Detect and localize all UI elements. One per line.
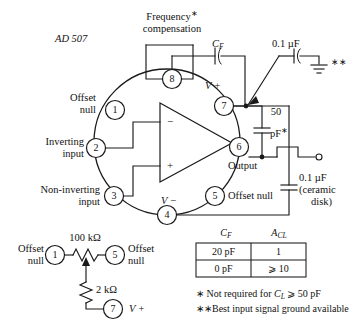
- minus-sign-text: −: [167, 115, 173, 127]
- footnote1-cl-symbol: C: [274, 288, 281, 299]
- output-jog-wire: [277, 147, 315, 157]
- bypass-cap-right-lead: [300, 56, 319, 64]
- resistor-100k-value: 100 kΩ: [69, 232, 100, 243]
- trimmer-offset-left-line1: Offset: [18, 243, 44, 254]
- pin7-to-50pf-wire: [246, 106, 262, 128]
- pin-label-3: 3: [107, 191, 121, 201]
- trimmer-v-plus-label: V +: [129, 303, 145, 315]
- table-header-cf-sub: F: [227, 231, 232, 240]
- freq-comp-right-branch: [182, 45, 193, 79]
- v-minus-label: V −: [161, 195, 177, 207]
- footnote-single-star: ∗ Not required for CL ⩾ 50 pF: [196, 288, 321, 303]
- output-ceramic-cap-label: 0.1 µF (ceramic disk): [299, 172, 336, 208]
- non-inverting-input-label: Non-inverting input: [2, 184, 100, 207]
- inverting-sign-label: −: [167, 116, 173, 128]
- trimmer-pin-label-7: 7: [106, 304, 120, 314]
- resistor-100k-label: 100 kΩ: [56, 232, 114, 244]
- pin-label-2: 2: [89, 143, 103, 153]
- offset-null-pin1-label: Offset null: [26, 92, 96, 115]
- trimmer-offset-left-line2: null: [28, 255, 44, 266]
- bypass-capacitor-label: 0.1 µF: [272, 38, 300, 50]
- output-cap-value: 0.1 µF: [299, 172, 327, 183]
- pin-label-6: 6: [232, 142, 246, 152]
- table-header-cf: CF: [212, 228, 240, 241]
- resistor-2k-value: 2 kΩ: [96, 284, 117, 295]
- table-cell-acl-row1: 1: [251, 247, 306, 257]
- trimmer-bottom-lead: [86, 303, 103, 309]
- output-label: Output: [228, 160, 257, 172]
- bypass-pointer-line: [248, 56, 279, 105]
- device-name-label: AD 507: [55, 33, 87, 45]
- footnote-doublestar-mark: ∗∗: [196, 303, 212, 314]
- compensation-label-text: compensation: [143, 23, 201, 34]
- inverting-input-line2: input: [62, 148, 84, 159]
- ground-double-star-label: ∗∗: [331, 57, 347, 69]
- non-inverting-input-line1: Non-inverting: [41, 184, 101, 195]
- pin-label-5: 5: [208, 191, 222, 201]
- v-minus-text: V −: [161, 195, 177, 206]
- inverting-input-line1: Inverting: [46, 136, 85, 147]
- inverting-input-wire: [105, 122, 160, 148]
- offset-null-pin5-text: Offset null: [228, 190, 273, 201]
- ground-double-star-text: ∗∗: [331, 57, 347, 67]
- device-name-text: AD 507: [55, 33, 87, 44]
- table-cell-acl-row2: ⩾ 10: [251, 264, 306, 274]
- frequency-asterisk: ∗: [191, 9, 198, 18]
- trimmer-offset-null-right-label: Offset null: [128, 243, 154, 266]
- cap50-unit-text: pF: [270, 128, 281, 139]
- pin-label-7: 7: [217, 101, 231, 111]
- table-cell-cf-row1: 20 pF: [196, 247, 251, 257]
- non-inverting-input-line2: input: [78, 196, 100, 207]
- pin-label-4: 4: [160, 210, 174, 220]
- bypass-capacitor-value: 0.1 µF: [272, 38, 300, 49]
- footnote-star-mark: ∗: [196, 288, 204, 299]
- table-header-acl: ACL: [264, 228, 294, 241]
- offset-null-pin1-line1: Offset: [70, 92, 96, 103]
- resistor-2k-zigzag: [80, 282, 92, 303]
- footnote1-text-a: Not required for: [207, 288, 274, 299]
- v-plus-text: V +: [205, 80, 221, 91]
- v-plus-label: V +: [205, 80, 221, 92]
- cf-symbol-text: C: [212, 38, 219, 49]
- cap50-value-label: 50: [263, 106, 289, 118]
- cap50-asterisk: ∗: [281, 126, 288, 135]
- trimmer-pin-label-5: 5: [108, 250, 122, 260]
- footnote-double-star: ∗∗Best input signal ground available: [196, 303, 349, 315]
- output-text: Output: [228, 160, 257, 171]
- cap50-value-text: 50: [271, 106, 282, 117]
- offset-null-pin1-line2: null: [80, 104, 96, 115]
- pin-label-1: 1: [108, 105, 122, 115]
- inverting-input-label: Inverting input: [6, 136, 84, 159]
- plus-sign-text: +: [167, 159, 173, 171]
- resistor-2k-label: 2 kΩ: [96, 284, 117, 296]
- table-header-acl-sub: CL: [277, 231, 286, 240]
- output-cap-note2: disk): [311, 196, 332, 207]
- cap50-unit-label: pF∗: [270, 125, 288, 140]
- footnote2-text: Best input signal ground available: [212, 303, 349, 314]
- frequency-compensation-label: Frequency∗ compensation: [126, 8, 218, 34]
- footnote1-text-b: ⩾ 50 pF: [285, 288, 321, 299]
- pin-label-8: 8: [165, 74, 179, 84]
- trimmer-v-plus-text: V +: [129, 303, 145, 314]
- output-terminal: [316, 154, 322, 160]
- cf-subscript-text: F: [219, 42, 224, 51]
- trimmer-pin-label-1: 1: [48, 250, 62, 260]
- trimmer-offset-right-line2: null: [128, 255, 144, 266]
- non-inverting-sign-label: +: [167, 160, 173, 172]
- offset-null-pin5-label: Offset null: [228, 190, 273, 202]
- table-cell-cf-row2: 0 pF: [196, 264, 251, 274]
- circuit-diagram-figure: Frequency∗ compensation AD 507 CF 0.1 µF…: [0, 0, 349, 328]
- trimmer-offset-null-left-label: Offset null: [0, 243, 44, 266]
- output-cap-note1: (ceramic: [299, 184, 336, 195]
- cf-capacitor-label: CF: [212, 38, 224, 53]
- freq-comp-left-branch: [146, 45, 162, 79]
- trimmer-offset-right-line1: Offset: [128, 243, 154, 254]
- frequency-label-text: Frequency: [146, 11, 190, 22]
